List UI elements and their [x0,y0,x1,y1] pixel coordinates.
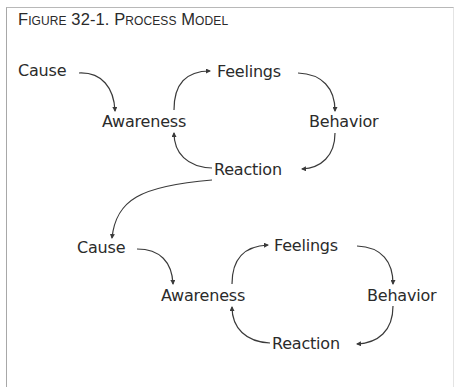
arrow-feelings-to-behavior-2 [357,246,393,284]
arrow-behavior-to-reaction-2 [357,306,393,344]
arrow-reaction-to-cause-2 [112,180,212,238]
arrow-reaction-to-awareness-2 [232,307,270,343]
arrow-awareness-to-feelings-2 [232,245,268,284]
arrow-awareness-to-feelings-1 [174,71,210,110]
arrow-cause-to-awareness-2 [137,249,173,284]
arrow-cause-to-awareness-1 [79,73,115,111]
arrow-feelings-to-behavior-1 [298,73,335,111]
arrow-reaction-to-awareness-1 [174,133,212,168]
arrow-behavior-to-reaction-1 [302,133,335,169]
